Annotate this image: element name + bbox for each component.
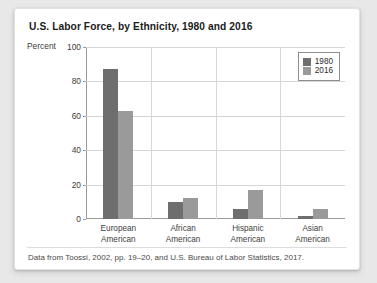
legend-swatch-icon — [303, 67, 311, 75]
y-axis-title: Percent — [27, 41, 56, 51]
gridline-vertical — [216, 47, 217, 219]
y-tick-mark — [83, 81, 86, 82]
x-axis-label: HispanicAmerican — [231, 224, 266, 245]
y-tick-label: 60 — [72, 111, 81, 121]
bar-1980-hispanic-american — [233, 209, 248, 219]
source-note: Data from Toossi, 2002, pp. 19–20, and U… — [28, 253, 304, 262]
bar-2016-asian-american — [313, 209, 328, 219]
x-axis-label-line: American — [166, 235, 201, 246]
chart-legend: 19802016 — [298, 52, 340, 81]
legend-item-2016: 2016 — [303, 67, 333, 75]
bar-1980-european-american — [103, 69, 118, 219]
x-axis-label: EuropeanAmerican — [101, 224, 137, 245]
bar-2016-african-american — [183, 198, 198, 219]
x-axis-label-line: Hispanic — [231, 224, 266, 235]
gridline-vertical — [280, 47, 281, 219]
y-tick-mark — [83, 185, 86, 186]
x-axis-label: AfricanAmerican — [166, 224, 201, 245]
y-tick-label: 40 — [72, 145, 81, 155]
bar-2016-european-american — [118, 111, 133, 219]
y-tick-mark — [83, 150, 86, 151]
bar-1980-asian-american — [298, 216, 313, 219]
y-tick-mark — [83, 219, 86, 220]
bar-2016-hispanic-american — [248, 190, 263, 219]
legend-label: 2016 — [315, 67, 333, 75]
x-axis-label-line: American — [101, 235, 137, 246]
plot-area: 020406080100 EuropeanAmericanAfricanAmer… — [86, 47, 345, 219]
x-axis-label-line: American — [295, 235, 330, 246]
gridline-vertical — [151, 47, 152, 219]
x-axis-label-line: African — [166, 224, 201, 235]
legend-label: 1980 — [315, 58, 333, 66]
y-tick-label: 80 — [72, 76, 81, 86]
x-axis-label-line: European — [101, 224, 137, 235]
x-axis-label: AsianAmerican — [295, 224, 330, 245]
y-tick-label: 20 — [72, 180, 81, 190]
figure-card: U.S. Labor Force, by Ethnicity, 1980 and… — [14, 8, 360, 270]
chart-title: U.S. Labor Force, by Ethnicity, 1980 and… — [29, 21, 252, 32]
bar-1980-african-american — [168, 202, 183, 219]
legend-item-1980: 1980 — [303, 58, 333, 66]
y-tick-label: 100 — [67, 42, 81, 52]
legend-swatch-icon — [303, 58, 311, 66]
x-axis-label-line: Asian — [295, 224, 330, 235]
y-tick-mark — [83, 47, 86, 48]
x-axis-label-line: American — [231, 235, 266, 246]
y-tick-label: 0 — [76, 214, 81, 224]
y-tick-mark — [83, 116, 86, 117]
note-divider — [27, 247, 347, 248]
